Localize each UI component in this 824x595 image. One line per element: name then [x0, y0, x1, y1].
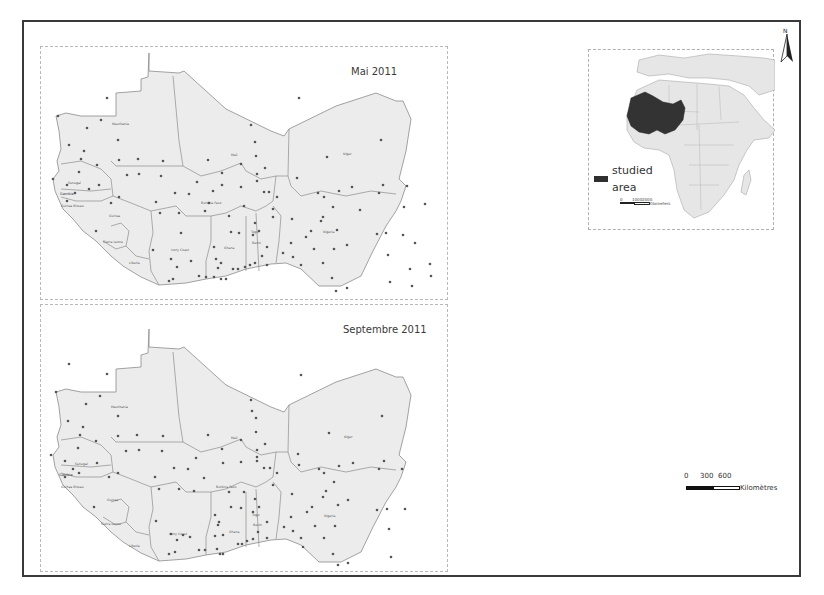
svg-text:Ghana: Ghana — [224, 246, 234, 250]
scale-bar-white — [713, 486, 740, 490]
inset-scale-bar-white — [634, 202, 650, 205]
scale-tick-300: 300 — [700, 472, 713, 480]
svg-text:Senegal: Senegal — [75, 462, 88, 466]
svg-text:Ivory Coast: Ivory Coast — [169, 532, 188, 536]
svg-text:Togo: Togo — [251, 513, 259, 517]
svg-text:Senegal: Senegal — [68, 181, 81, 185]
svg-text:Benin: Benin — [253, 523, 262, 527]
svg-text:Mali: Mali — [231, 153, 238, 157]
scale-tick-0: 0 — [684, 472, 688, 480]
inset-scale-unit: Kilometers — [649, 201, 670, 206]
north-arrow-icon — [779, 30, 795, 64]
africa-map — [589, 50, 775, 231]
svg-text:Gambia: Gambia — [60, 192, 74, 196]
panel-title-september: Septembre 2011 — [343, 324, 427, 335]
svg-text:Nigeria: Nigeria — [324, 514, 335, 518]
svg-text:Guinea: Guinea — [107, 498, 118, 502]
svg-text:Liberia: Liberia — [129, 544, 140, 548]
west-africa-map-may: Mauritania Mali Niger Senegal Gambia Gui… — [41, 47, 449, 301]
svg-text:Sierra Leone: Sierra Leone — [101, 522, 121, 526]
svg-text:Benin: Benin — [252, 241, 261, 245]
svg-text:Ghana: Ghana — [229, 530, 239, 534]
map-panel-september: Mauritania Mali Niger Senegal Gambia Gui… — [40, 304, 448, 572]
svg-text:Mali: Mali — [231, 436, 238, 440]
svg-text:Guinea Bissau: Guinea Bissau — [61, 485, 84, 489]
svg-text:Nigeria: Nigeria — [323, 230, 334, 234]
scale-bar-black — [686, 486, 713, 490]
scale-bar: 0 300 600 Kilomètres — [684, 472, 804, 502]
svg-text:Mauritania: Mauritania — [111, 405, 128, 409]
svg-text:Sierra Leone: Sierra Leone — [103, 240, 123, 244]
svg-text:Ivory Coast: Ivory Coast — [171, 248, 190, 252]
scale-tick-600: 600 — [718, 472, 731, 480]
west-africa-map-september: Mauritania Mali Niger Senegal Gambia Gui… — [41, 305, 449, 573]
west-africa-land — [53, 53, 411, 286]
map-panel-may: Mauritania Mali Niger Senegal Gambia Gui… — [40, 46, 448, 300]
legend-label-line1: studied — [612, 164, 653, 178]
svg-text:Burkina Faso: Burkina Faso — [216, 485, 236, 489]
panel-title-may: Mai 2011 — [351, 66, 397, 77]
studied-area-legend-swatch — [594, 176, 608, 182]
svg-text:Niger: Niger — [343, 152, 352, 156]
legend-label-line2: area — [612, 181, 637, 195]
svg-text:Niger: Niger — [344, 435, 353, 439]
svg-text:Togo: Togo — [250, 230, 258, 234]
svg-text:Burkina Faso: Burkina Faso — [201, 201, 221, 205]
svg-text:Gambia: Gambia — [59, 473, 73, 477]
africa-locator-inset: studied area 0 1000 2000 Kilometers — [588, 49, 774, 230]
svg-text:Liberia: Liberia — [129, 261, 140, 265]
west-africa-land — [53, 329, 411, 562]
svg-text:Guinea Bissau: Guinea Bissau — [61, 204, 84, 208]
svg-text:Mauritania: Mauritania — [112, 122, 129, 126]
svg-text:Guinea: Guinea — [109, 214, 120, 218]
scale-unit: Kilomètres — [740, 484, 777, 492]
